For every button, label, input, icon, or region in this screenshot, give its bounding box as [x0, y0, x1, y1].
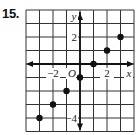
data-point	[77, 74, 83, 80]
x-axis-left-arrow-icon	[26, 61, 33, 67]
axes	[26, 12, 134, 131]
data-point	[117, 34, 123, 40]
data-point	[90, 61, 96, 67]
data-point	[36, 115, 42, 121]
y-axis-label: y	[71, 10, 77, 22]
data-point	[104, 47, 110, 53]
y-tick-label: 2	[72, 31, 78, 43]
origin-label: O	[68, 67, 76, 79]
coordinate-plane: −222−4Oxy	[0, 0, 137, 135]
x-tick-label: 2	[104, 67, 110, 79]
y-axis-down-arrow-icon	[77, 124, 83, 131]
y-tick-label: −4	[65, 112, 77, 124]
data-point	[50, 101, 56, 107]
axis-labels: −222−4Oxy	[46, 10, 133, 124]
data-point	[63, 88, 69, 94]
x-tick-label: −2	[47, 67, 59, 79]
x-axis-label: x	[126, 67, 132, 79]
